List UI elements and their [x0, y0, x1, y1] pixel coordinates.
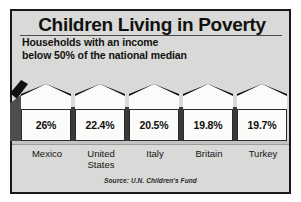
value-label: 19.7% — [237, 109, 287, 141]
source-attribution: Source: U.N. Children's Fund — [12, 177, 289, 184]
house-side-wall — [10, 95, 21, 141]
axis-label-italy: Italy — [124, 148, 186, 159]
subtitle-line-2: below 50% of the national median — [22, 49, 257, 62]
axis-label-line-1: United — [87, 148, 114, 159]
house-bar-mexico: 26% — [21, 79, 71, 141]
axis-label-turkey: Turkey — [232, 148, 294, 159]
axis-label-united-states: United States — [70, 148, 132, 170]
axis-label-mexico: Mexico — [16, 148, 78, 159]
house-bar-italy: 20.5% — [129, 79, 179, 141]
house-bar-britain: 19.8% — [183, 79, 233, 141]
value-label: 22.4% — [75, 109, 125, 141]
chart-title: Children Living in Poverty — [23, 14, 281, 35]
subtitle-line-1: Households with an income — [22, 36, 158, 48]
house-bar-group: 26% 22.4% — [21, 66, 283, 141]
poverty-infographic: Children Living in Poverty Households wi… — [0, 0, 301, 202]
category-axis-labels: Mexico United States Italy Britain Turke… — [12, 148, 289, 176]
value-label: 26% — [21, 109, 71, 141]
axis-label-line-1: Italy — [146, 148, 163, 159]
infographic-canvas: Children Living in Poverty Households wi… — [12, 11, 289, 192]
chart-subtitle: Households with an income below 50% of t… — [22, 36, 257, 61]
axis-label-britain: Britain — [178, 148, 240, 159]
value-label: 20.5% — [129, 109, 179, 141]
axis-label-line-1: Mexico — [32, 148, 62, 159]
baseline — [12, 144, 289, 145]
house-bar-united-states: 22.4% — [75, 79, 125, 141]
axis-label-line-2: States — [70, 159, 132, 170]
value-label: 19.8% — [183, 109, 233, 141]
axis-label-line-1: Britain — [196, 148, 223, 159]
infographic-frame: Children Living in Poverty Households wi… — [10, 9, 291, 194]
chart-plot-area: 26% 22.4% — [12, 66, 289, 141]
axis-label-line-1: Turkey — [249, 148, 278, 159]
house-bar-turkey: 19.7% — [237, 79, 287, 141]
